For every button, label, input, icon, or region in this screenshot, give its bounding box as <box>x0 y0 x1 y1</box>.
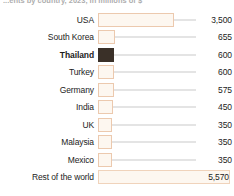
bar-connector-line <box>115 37 196 38</box>
bar-value-label: 5,570 <box>208 172 229 182</box>
bar <box>98 83 114 97</box>
bar-track: 575 <box>98 81 234 99</box>
bar-row: Thailand600 <box>0 46 234 64</box>
bar-chart: ...ents by country, 2023, in millions of… <box>0 0 234 196</box>
bar-track: 450 <box>98 99 234 117</box>
bar-value-label: 350 <box>218 155 232 165</box>
bar-row-label: Mexico <box>0 155 98 165</box>
bar-row: Turkey600 <box>0 64 234 82</box>
bar <box>98 118 112 132</box>
bar-row-label: Germany <box>0 85 98 95</box>
bar-track: 350 <box>98 116 234 134</box>
bar-row: Malaysia350 <box>0 134 234 152</box>
bar-rows: USA3,500South Korea655Thailand600Turkey6… <box>0 11 234 186</box>
bar-row: UK350 <box>0 116 234 134</box>
bar-value-label: 600 <box>218 50 232 60</box>
bar-row-label: Malaysia <box>0 137 98 147</box>
bar <box>98 135 112 149</box>
bar-connector-line <box>174 19 196 20</box>
bar-track: 600 <box>98 64 234 82</box>
bar-connector-line <box>114 54 196 55</box>
bar-row: Rest of the world5,570 <box>0 169 234 187</box>
bar-track: 350 <box>98 134 234 152</box>
bar-value-label: 350 <box>218 120 232 130</box>
bar-value-label: 350 <box>218 137 232 147</box>
bar-connector-line <box>113 107 196 108</box>
bar-value-label: 655 <box>218 32 232 42</box>
bar-row-label: UK <box>0 120 98 130</box>
bar-row: Mexico350 <box>0 151 234 169</box>
bar-connector-line <box>114 72 196 73</box>
bar-row-label: Turkey <box>0 67 98 77</box>
bar <box>98 48 114 62</box>
bar-row: India450 <box>0 99 234 117</box>
bar <box>98 65 114 79</box>
bar-track: 600 <box>98 46 234 64</box>
bar-row-label: South Korea <box>0 32 98 42</box>
bar-row-label: Rest of the world <box>0 172 98 182</box>
bar-track: 350 <box>98 151 234 169</box>
bar-row-label: USA <box>0 15 98 25</box>
chart-title: ...ents by country, 2023, in millions of… <box>3 0 231 5</box>
bar-row: USA3,500 <box>0 11 234 29</box>
bar-row: Germany575 <box>0 81 234 99</box>
bar-track: 3,500 <box>98 11 234 29</box>
bar-track: 655 <box>98 29 234 47</box>
bar <box>98 153 112 167</box>
bar-value-label: 600 <box>218 67 232 77</box>
bar <box>98 30 115 44</box>
bar <box>98 100 113 114</box>
bar-connector-line <box>114 89 196 90</box>
bar-connector-line <box>112 124 196 125</box>
bar-connector-line <box>112 159 196 160</box>
bar-row-label: Thailand <box>0 50 98 60</box>
bar-value-label: 3,500 <box>211 15 232 25</box>
bar-track: 5,570 <box>98 169 234 187</box>
bar-value-label: 450 <box>218 102 232 112</box>
bar-connector-line <box>112 142 196 143</box>
bar <box>98 13 174 27</box>
bar-value-label: 575 <box>218 85 232 95</box>
bar-row: South Korea655 <box>0 29 234 47</box>
bar-row-label: India <box>0 102 98 112</box>
